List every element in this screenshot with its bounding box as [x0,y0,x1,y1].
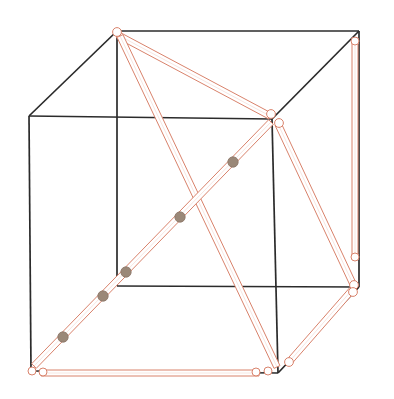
diagonal-node-5 [58,332,68,342]
joint-front-bottom-right [264,367,272,375]
joint-bottom-right-outer [285,358,294,367]
joint-right-bottom-lower [349,288,358,297]
cube-tensegrity-diagram [0,0,394,399]
joint-front-top-right-upper [267,110,276,119]
diagonal-node-1 [228,157,238,167]
joint-front-top-right-lower [275,119,284,128]
diagonal-node-4 [98,291,108,301]
joint-bottom-mid-right [252,368,260,376]
diagonal-node-3 [121,267,131,277]
joint-right-top [351,37,359,45]
figure-container [0,0,394,399]
diagonal-node-2 [175,212,185,222]
joint-front-bottom-left-b [39,368,47,376]
joint-right-mid [351,253,359,261]
joint-back-top-left [113,28,122,37]
joint-front-bottom-left-a [28,367,36,375]
